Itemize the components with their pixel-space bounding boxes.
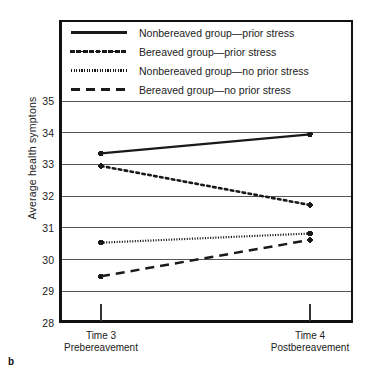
- point-s2-t3: [98, 163, 103, 168]
- legend-swatches: [71, 33, 127, 90]
- y-tick-28: 28: [28, 317, 54, 329]
- point-s1-t3: [98, 151, 103, 156]
- legend-label-bereaved-prior-stress: Bereaved group—prior stress: [139, 46, 276, 58]
- plot-area: Nonbereaved group—prior stress Bereaved …: [59, 20, 353, 323]
- point-s4-t3: [98, 274, 103, 279]
- gridlines: [59, 101, 353, 291]
- series-line-bereaved-prior-stress: [101, 166, 310, 205]
- x-tick-time3: Time 3 Prebereavement: [31, 330, 171, 354]
- point-s4-t4: [307, 237, 312, 242]
- x-tick-time4-line2: Postbereavement: [240, 342, 373, 354]
- y-tick-31: 31: [28, 222, 54, 234]
- legend-label-bereaved-no-prior-stress: Bereaved group—no prior stress: [139, 84, 291, 96]
- y-tick-35: 35: [28, 95, 54, 107]
- series-line-nonbereaved-no-prior-stress: [101, 234, 310, 243]
- x-tick-time4: Time 4 Postbereavement: [240, 330, 373, 354]
- y-tick-33: 33: [28, 158, 54, 170]
- x-tick-time4-line1: Time 4: [240, 330, 373, 342]
- x-tick-time3-line2: Prebereavement: [31, 342, 171, 354]
- y-tick-29: 29: [28, 285, 54, 297]
- y-tick-34: 34: [28, 127, 54, 139]
- panel-letter: b: [8, 356, 14, 367]
- point-s3-t4: [307, 231, 312, 236]
- y-tick-32: 32: [28, 190, 54, 202]
- legend-label-nonbereaved-no-prior-stress: Nonbereaved group—no prior stress: [139, 65, 309, 77]
- series-line-nonbereaved-prior-stress: [101, 134, 310, 153]
- point-s1-t4: [307, 132, 312, 137]
- point-s2-t4: [307, 202, 312, 207]
- point-s3-t3: [98, 240, 103, 245]
- y-tick-30: 30: [28, 254, 54, 266]
- x-axis-ticks: [101, 304, 310, 321]
- series-line-bereaved-no-prior-stress: [101, 240, 310, 276]
- legend-label-nonbereaved-prior-stress: Nonbereaved group—prior stress: [139, 27, 294, 39]
- figure-panel-b: Average health symptons 35 34 33 32 31 3…: [0, 0, 373, 377]
- x-tick-time3-line1: Time 3: [31, 330, 171, 342]
